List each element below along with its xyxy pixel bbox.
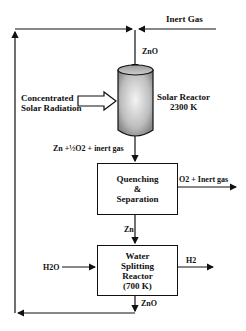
- h2o-input-label: H2O: [43, 263, 59, 272]
- solar-reactor-cylinder: [118, 65, 153, 136]
- reactor-outflow-label: Zn +½O2 + inert gas: [53, 144, 124, 153]
- water-splitting-box: Water Splitting Reactor (700 K): [97, 245, 178, 296]
- zno-feed-label: ZnO: [142, 47, 158, 56]
- water-box-label: Water Splitting Reactor (700 K): [121, 251, 154, 291]
- radiation-arrow-icon: [78, 92, 116, 110]
- solar-reactor-temp: 2300 K: [170, 102, 197, 112]
- inert-gas-label: Inert Gas: [166, 14, 203, 24]
- quench-separation-box: Quenching & Separation: [97, 163, 178, 215]
- quench-box-label: Quenching & Separation: [116, 174, 158, 204]
- zno-recycle-label: ZnO: [141, 299, 157, 308]
- solar-reactor-label: Solar Reactor: [157, 92, 210, 102]
- o2-output-label: O2 + Inert gas: [179, 175, 228, 184]
- radiation-label: Concentrated Solar Radiation: [21, 93, 82, 113]
- h2-output-label: H2: [186, 256, 196, 265]
- zn-product-label: Zn: [124, 225, 134, 234]
